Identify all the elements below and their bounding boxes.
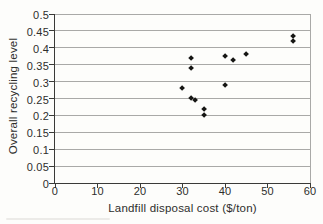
y-tick-mark (49, 115, 54, 116)
data-point (188, 55, 194, 61)
y-tick-mark (49, 183, 54, 184)
y-tick-mark (49, 30, 54, 31)
x-tick-label: 20 (126, 185, 154, 197)
data-point (222, 53, 228, 59)
data-point (180, 85, 186, 91)
data-point (222, 82, 228, 88)
scan-artifact-line (6, 218, 110, 220)
gridline (55, 149, 310, 150)
y-tick-label: 0.3 (13, 77, 49, 89)
y-tick-label: 0.4 (13, 43, 49, 55)
data-point (188, 65, 194, 71)
y-tick-label: 0.5 (13, 9, 49, 21)
gridline (55, 81, 310, 82)
y-tick-label: 0.45 (13, 26, 49, 38)
y-tick-mark (49, 47, 54, 48)
gridline (55, 30, 310, 31)
x-tick-label: 10 (84, 185, 112, 197)
gridline (55, 64, 310, 65)
data-point (243, 52, 249, 58)
gridline (55, 132, 310, 133)
gridline (55, 14, 310, 15)
y-tick-mark (49, 149, 54, 150)
gridline (55, 98, 310, 99)
y-tick-mark (49, 14, 54, 15)
y-tick-label: 0.2 (13, 110, 49, 122)
y-tick-label: 0.1 (13, 144, 49, 156)
gridline (55, 115, 310, 116)
x-tick-label: 30 (169, 185, 197, 197)
plot-right-border (310, 14, 311, 183)
y-tick-label: 0.05 (13, 161, 49, 173)
data-point (231, 57, 237, 63)
y-tick-mark (49, 81, 54, 82)
y-axis-line (54, 14, 55, 184)
y-tick-mark (49, 64, 54, 65)
data-point (290, 38, 296, 44)
gridline (55, 47, 310, 48)
y-tick-mark (49, 166, 54, 167)
x-axis-title: Landfill disposal cost ($/ton) (55, 202, 310, 214)
y-tick-label: 0.25 (13, 94, 49, 106)
x-tick-label: 0 (41, 185, 69, 197)
gridline (55, 166, 310, 167)
x-tick-label: 40 (211, 185, 239, 197)
x-tick-label: 50 (254, 185, 282, 197)
y-tick-label: 0.15 (13, 127, 49, 139)
y-tick-label: 0.35 (13, 60, 49, 72)
data-point (201, 106, 207, 112)
scatter-chart-figure: Overall recycling level Landfill disposa… (0, 0, 323, 224)
data-point (201, 112, 207, 118)
y-tick-mark (49, 98, 54, 99)
x-tick-label: 60 (296, 185, 323, 197)
y-tick-mark (49, 132, 54, 133)
